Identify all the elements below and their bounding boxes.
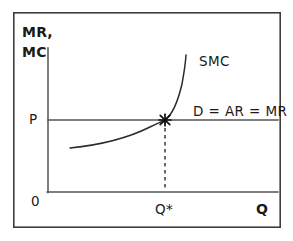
economics-diagram-figure: MR, MC P 0 Q* Q SMC D = AR = MR [0, 0, 293, 241]
x-axis-label: Q [256, 201, 268, 217]
origin-label: 0 [31, 193, 40, 209]
smc-curve-label: SMC [199, 53, 230, 69]
price-axis-label: P [29, 111, 38, 127]
quantity-star-label: Q* [155, 201, 173, 217]
demand-curve-label: D = AR = MR [193, 103, 287, 119]
y-axis-label-line2: MC [22, 44, 47, 60]
diagram-canvas: MR, MC P 0 Q* Q SMC D = AR = MR [0, 0, 293, 241]
equilibrium-star-marker [159, 114, 171, 126]
y-axis-label-line1: MR, [22, 24, 53, 40]
